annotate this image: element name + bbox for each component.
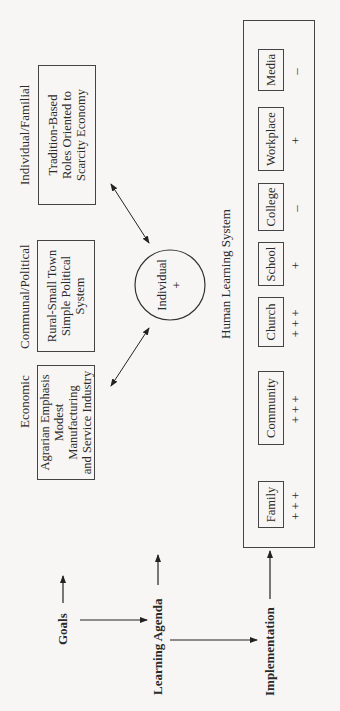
institution-media: Media [258, 49, 284, 91]
rating-church: +++ [288, 297, 304, 347]
header-individual-familial: Individual/Familial [17, 85, 33, 185]
rating-college: – [288, 183, 304, 231]
rating-community: +++ [288, 371, 304, 445]
implementation-label: Implementation [262, 607, 278, 696]
box-economic: Agrarian Emphasis Modest Manufacturing a… [37, 365, 95, 480]
familial-line-3: Scarcity Economy [74, 89, 88, 181]
goals-label: Goals [55, 613, 71, 645]
economic-line-3: and Service Industry [80, 366, 94, 479]
communal-line-1: Rural-Small Town [45, 241, 59, 351]
box-communal-political: Rural-Small Town Simple Political System [37, 240, 95, 352]
individual-rating: + [170, 259, 185, 311]
institution-church: Church [258, 297, 284, 347]
rating-media: – [288, 49, 304, 91]
familial-line-2: Roles Oriented to [60, 89, 74, 181]
individual-label: Individual [155, 259, 170, 311]
institution-college: College [258, 183, 284, 231]
diagram-canvas: Goals Learning Agenda Implementation Eco… [0, 0, 340, 711]
rating-workplace: + [288, 107, 304, 171]
header-communal-political: Communal/Political [17, 244, 33, 349]
learning-system-title: Human Learning System [218, 209, 234, 339]
double-arrow-economic [111, 328, 149, 386]
box-individual-familial: Tradition-Based Roles Oriented to Scarci… [38, 65, 96, 205]
institution-community: Community [258, 371, 284, 445]
institution-workplace: Workplace [258, 107, 284, 171]
learning-agenda-label: Learning Agenda [150, 599, 166, 695]
header-economic: Economic [17, 375, 33, 428]
rating-school: + [288, 242, 304, 286]
institution-school: School [258, 242, 284, 286]
economic-line-2: Modest Manufacturing [52, 366, 80, 479]
economic-line-1: Agrarian Emphasis [38, 366, 52, 479]
double-arrow-familial [111, 184, 149, 243]
familial-line-1: Tradition-Based [46, 89, 60, 181]
rating-family: +++ [288, 481, 304, 528]
communal-line-2: Simple Political System [59, 241, 87, 351]
institution-family: Family [258, 481, 284, 528]
